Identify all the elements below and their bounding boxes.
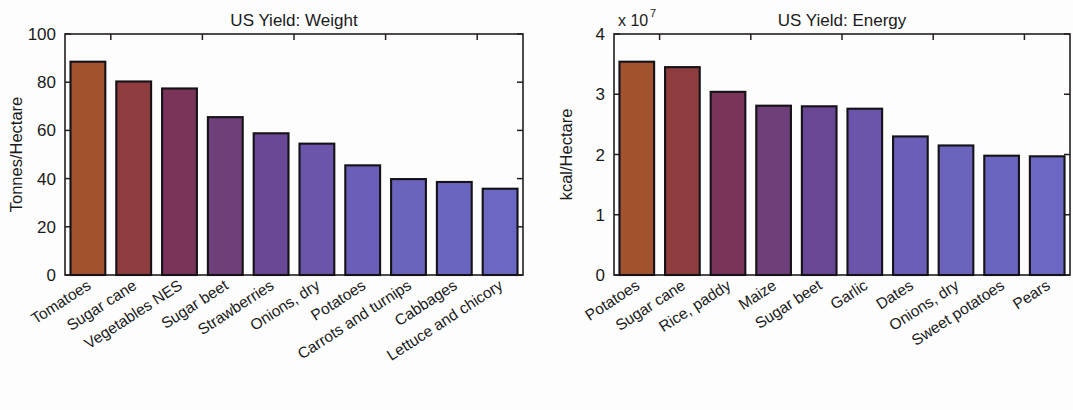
bar[interactable] — [345, 165, 380, 275]
bar[interactable] — [984, 156, 1019, 275]
axis-multiplier-label: x 10 — [618, 12, 648, 29]
bar-chart-us-yield-energy: 01234PotatoesSugar caneRice, paddyMaizeS… — [536, 0, 1073, 410]
bar[interactable] — [299, 144, 334, 275]
y-tick-label: 3 — [596, 85, 605, 104]
chart-title: US Yield: Energy — [778, 11, 907, 30]
bar[interactable] — [939, 145, 974, 275]
bar[interactable] — [756, 106, 791, 275]
y-tick-label: 20 — [37, 218, 56, 237]
bar[interactable] — [665, 67, 700, 275]
bar[interactable] — [70, 62, 105, 275]
chart-title: US Yield: Weight — [230, 11, 358, 30]
y-tick-label: 0 — [596, 266, 605, 285]
figure-canvas: 020406080100TomatoesSugar caneVegetables… — [0, 0, 1073, 410]
bar[interactable] — [437, 182, 472, 275]
y-tick-label: 2 — [596, 146, 605, 165]
x-category-label: Pears — [1010, 276, 1053, 312]
y-tick-label: 40 — [37, 170, 56, 189]
y-tick-label: 60 — [37, 121, 56, 140]
x-category-label: Garlic — [827, 276, 870, 312]
y-tick-label: 0 — [47, 266, 56, 285]
bar[interactable] — [847, 109, 882, 275]
bar[interactable] — [802, 106, 837, 275]
bar[interactable] — [254, 133, 289, 275]
chart-panel-weight: 020406080100TomatoesSugar caneVegetables… — [0, 0, 536, 410]
bar[interactable] — [162, 88, 197, 275]
y-tick-label: 4 — [596, 25, 605, 44]
y-tick-label: 100 — [28, 25, 56, 44]
bar[interactable] — [483, 189, 518, 275]
bar[interactable] — [208, 117, 243, 275]
bar-chart-us-yield-weight: 020406080100TomatoesSugar caneVegetables… — [0, 0, 536, 410]
bar[interactable] — [619, 62, 654, 275]
bar[interactable] — [893, 136, 928, 275]
bar[interactable] — [116, 81, 151, 275]
y-axis-title: kcal/Hectare — [557, 109, 575, 201]
y-tick-label: 1 — [596, 206, 605, 225]
axis-multiplier-exponent: 7 — [650, 7, 656, 19]
y-tick-label: 80 — [37, 73, 56, 92]
chart-panel-energy: 01234PotatoesSugar caneRice, paddyMaizeS… — [536, 0, 1073, 410]
bar[interactable] — [711, 92, 746, 275]
bar[interactable] — [1030, 156, 1065, 275]
y-axis-title: Tonnes/Hectare — [7, 97, 25, 213]
bar[interactable] — [391, 179, 426, 275]
